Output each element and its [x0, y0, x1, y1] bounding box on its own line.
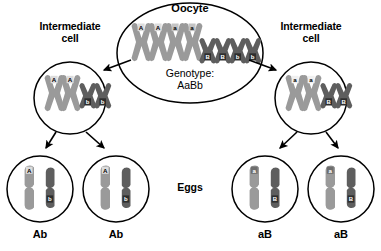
intermediate-cell-left: A A b b [34, 62, 111, 134]
allele-label: a [293, 76, 297, 83]
allele-label: A [103, 167, 108, 174]
egg-2-genotype-label: Ab [86, 228, 146, 240]
intermediate-cell-right-label: Intermediate cell [261, 21, 361, 45]
allele-label: B [327, 99, 332, 105]
allele-label: a [328, 167, 332, 174]
egg-1-genotype-label: Ab [10, 228, 70, 240]
arrow-right-intermediate-to-egg-4 [326, 132, 338, 148]
allele-label: b [236, 54, 240, 60]
egg-cell-4: a B [308, 156, 374, 222]
egg-4-membrane [308, 156, 374, 222]
allele-label: B [221, 54, 226, 60]
allele-label: B [342, 99, 347, 105]
egg-3-genotype-label: aB [235, 228, 295, 240]
allele-label: A [27, 167, 32, 174]
arrow-left-intermediate-to-egg-2 [86, 132, 104, 148]
allele-label: A [139, 24, 144, 31]
egg-cell-3: a B [232, 156, 298, 222]
egg-2-membrane [83, 156, 149, 222]
allele-label: B [206, 54, 211, 60]
intermediate-cell-left-label: Intermediate cell [20, 21, 120, 45]
allele-label: A [52, 76, 57, 83]
allele-label: b [48, 196, 52, 202]
allele-label: A [68, 76, 73, 83]
allele-label: b [251, 54, 255, 60]
egg-3-membrane [232, 156, 298, 222]
intermediate-cell-right: a a B B [275, 62, 352, 134]
arrow-left-intermediate-to-egg-1 [46, 132, 56, 148]
egg-cell-2: A b [83, 156, 149, 222]
allele-label: a [252, 167, 256, 174]
arrow-right-intermediate-to-egg-3 [280, 132, 297, 148]
eggs-label: Eggs [160, 182, 220, 194]
meiosis-diagram: A A a a [0, 0, 381, 251]
allele-label: b [86, 99, 90, 105]
allele-label: a [190, 24, 194, 31]
allele-label: A [156, 24, 161, 31]
genotype-value: AaBb [150, 80, 230, 92]
genotype-label: Genotype: [150, 68, 230, 80]
allele-label: a [173, 24, 177, 31]
allele-label: a [309, 76, 313, 83]
egg-1-membrane [7, 156, 73, 222]
allele-label: B [349, 196, 354, 202]
egg-4-genotype-label: aB [311, 228, 371, 240]
allele-label: b [101, 99, 105, 105]
egg-cell-1: A b [7, 156, 73, 222]
allele-label: B [273, 196, 278, 202]
oocyte-title: Oocyte [155, 2, 225, 14]
allele-label: b [124, 196, 128, 202]
